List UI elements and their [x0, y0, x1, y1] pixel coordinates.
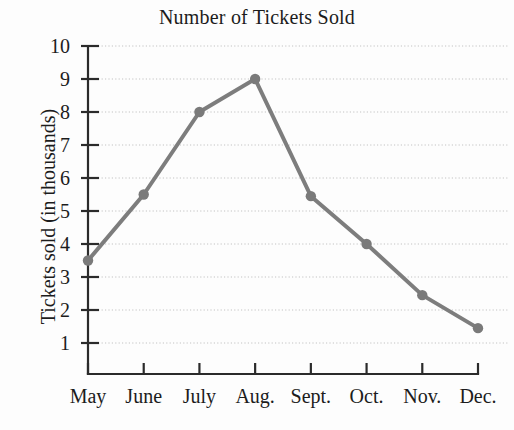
y-tick-label: 1: [40, 333, 70, 353]
y-tick-label: 9: [40, 69, 70, 89]
data-point-marker: [139, 189, 149, 199]
y-tick-label: 5: [40, 201, 70, 221]
y-tick-marks-group: [81, 46, 99, 343]
y-tick-label: 6: [40, 168, 70, 188]
data-point-marker: [361, 239, 371, 249]
x-tick-label: Dec.: [443, 386, 513, 406]
gridlines-group: [88, 46, 508, 343]
y-tick-label: 2: [40, 300, 70, 320]
y-tick-label: 8: [40, 102, 70, 122]
plot-area: [0, 0, 514, 430]
data-point-marker: [83, 255, 93, 265]
y-tick-label: 10: [40, 36, 70, 56]
data-point-marker: [194, 107, 204, 117]
line-chart: Number of Tickets Sold Tickets sold (in …: [0, 0, 514, 430]
data-point-marker: [306, 191, 316, 201]
x-tick-marks-group: [88, 363, 478, 374]
axes-group: [88, 46, 478, 374]
y-tick-label: 4: [40, 234, 70, 254]
data-point-marker: [417, 290, 427, 300]
data-markers-group: [83, 74, 483, 334]
y-tick-label: 3: [40, 267, 70, 287]
y-tick-label: 7: [40, 135, 70, 155]
data-point-marker: [250, 74, 260, 84]
data-point-marker: [473, 323, 483, 333]
